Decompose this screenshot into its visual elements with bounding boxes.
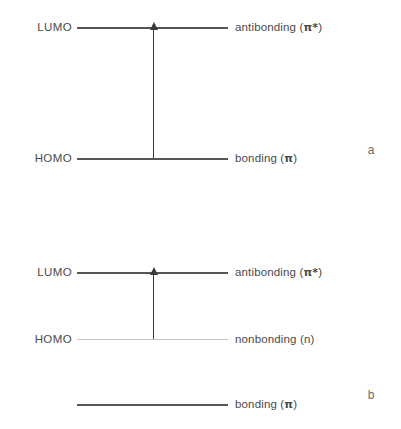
state-label-homo-b: HOMO xyxy=(10,333,72,345)
state-label-lumo-b: LUMO xyxy=(10,266,72,278)
orbital-label-suffix: ) xyxy=(318,21,322,33)
orbital-label-bonding-b: bonding (π) xyxy=(235,398,297,411)
orbital-label-prefix: bonding ( xyxy=(235,398,284,410)
panel-letter-b: b xyxy=(368,388,375,402)
mo-energy-diagram-figure: LUMO antibonding (π*) HOMO bonding (π) a… xyxy=(0,0,401,429)
orbital-label-prefix: antibonding ( xyxy=(235,21,303,33)
orbital-label-prefix: nonbonding ( xyxy=(235,333,304,345)
orbital-label-suffix: ) xyxy=(311,333,315,345)
transition-arrow-shaft-b xyxy=(153,274,154,339)
state-label-homo-a: HOMO xyxy=(10,152,72,164)
orbital-symbol-pi-star: π* xyxy=(303,21,318,34)
panel-a: LUMO antibonding (π*) HOMO bonding (π) a xyxy=(0,0,401,215)
orbital-symbol-pi: π xyxy=(284,398,293,411)
orbital-label-bonding-a: bonding (π) xyxy=(235,152,297,165)
panel-b: LUMO antibonding (π*) HOMO nonbonding (n… xyxy=(0,215,401,429)
transition-arrow-head-b xyxy=(150,267,158,275)
orbital-label-prefix: bonding ( xyxy=(235,152,284,164)
level-line-bonding-a xyxy=(77,158,228,160)
orbital-label-suffix: ) xyxy=(293,398,297,410)
state-label-lumo-a: LUMO xyxy=(10,21,72,33)
orbital-label-nonbonding-b: nonbonding (n) xyxy=(235,333,314,345)
orbital-label-prefix: antibonding ( xyxy=(235,266,303,278)
panel-letter-a: a xyxy=(368,143,375,157)
orbital-symbol-pi: π xyxy=(284,152,293,165)
orbital-symbol-pi-star: π* xyxy=(303,266,318,279)
level-line-bonding-b xyxy=(77,404,228,406)
orbital-label-suffix: ) xyxy=(318,266,322,278)
orbital-label-antibonding-b: antibonding (π*) xyxy=(235,266,322,279)
orbital-label-suffix: ) xyxy=(293,152,297,164)
transition-arrow-shaft-a xyxy=(153,29,154,158)
transition-arrow-head-a xyxy=(150,22,158,30)
level-line-nonbonding-b xyxy=(77,339,228,340)
orbital-label-antibonding-a: antibonding (π*) xyxy=(235,21,322,34)
